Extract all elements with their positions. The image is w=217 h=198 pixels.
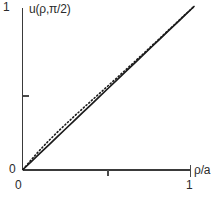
y-axis-tick-label-origin: 0 bbox=[9, 163, 16, 175]
y-axis-title: u(ρ,π/2) bbox=[29, 3, 71, 15]
plot-area bbox=[0, 0, 217, 198]
x-axis-tick-label-origin: 0 bbox=[15, 179, 22, 191]
x-axis-tick-label-end: 1 bbox=[186, 179, 193, 191]
x-axis-title: ρ/a bbox=[194, 164, 210, 176]
series-line-exact bbox=[23, 7, 194, 170]
figure-chart-u-rho-pi-over-2: 1 u(ρ,π/2) 0 0 1 ρ/a bbox=[0, 0, 217, 198]
y-axis-tick-label-top: 1 bbox=[3, 1, 10, 13]
